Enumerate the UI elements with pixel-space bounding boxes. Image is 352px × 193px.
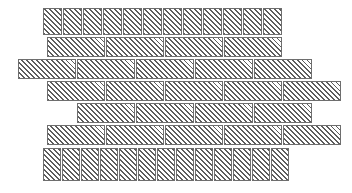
brick-wall-diagram <box>0 0 352 193</box>
brick-stretcher <box>106 37 164 57</box>
brick-header <box>43 148 61 181</box>
brick-stretcher <box>77 103 135 123</box>
brick-stretcher <box>47 37 105 57</box>
brick-stretcher <box>77 59 135 79</box>
brick-header <box>43 8 62 35</box>
brick-stretcher <box>18 59 76 79</box>
brick-header <box>263 8 282 35</box>
brick-stretcher <box>224 125 282 145</box>
brick-header <box>271 148 289 181</box>
brick-header <box>143 8 162 35</box>
brick-stretcher <box>106 81 164 101</box>
brick-header <box>81 148 99 181</box>
brick-header <box>123 8 142 35</box>
brick-header <box>233 148 251 181</box>
brick-stretcher <box>165 37 223 57</box>
brick-header <box>83 8 102 35</box>
brick-header <box>103 8 122 35</box>
brick-stretcher <box>283 81 341 101</box>
brick-stretcher <box>224 81 282 101</box>
brick-stretcher <box>254 59 312 79</box>
brick-header <box>243 8 262 35</box>
brick-header <box>252 148 270 181</box>
brick-header <box>214 148 232 181</box>
brick-header <box>62 148 80 181</box>
brick-header <box>163 8 182 35</box>
brick-stretcher <box>106 125 164 145</box>
brick-header <box>100 148 118 181</box>
brick-header <box>203 8 222 35</box>
brick-stretcher <box>136 59 194 79</box>
brick-stretcher <box>165 81 223 101</box>
brick-stretcher <box>224 37 282 57</box>
brick-stretcher <box>283 125 341 145</box>
brick-header <box>176 148 194 181</box>
brick-header <box>183 8 202 35</box>
brick-stretcher <box>254 103 312 123</box>
brick-header <box>223 8 242 35</box>
brick-stretcher <box>195 59 253 79</box>
brick-header <box>119 148 137 181</box>
brick-header <box>63 8 82 35</box>
brick-stretcher <box>136 103 194 123</box>
brick-stretcher <box>195 103 253 123</box>
brick-stretcher <box>165 125 223 145</box>
brick-header <box>157 148 175 181</box>
brick-header <box>195 148 213 181</box>
brick-stretcher <box>47 81 105 101</box>
brick-header <box>138 148 156 181</box>
brick-stretcher <box>47 125 105 145</box>
